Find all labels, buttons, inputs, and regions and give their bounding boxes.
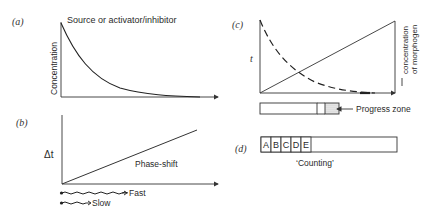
legend-slow: Slow: [60, 198, 111, 208]
panel-a-decay-curve: [61, 23, 200, 97]
counting-cell-label: E: [303, 140, 309, 150]
panel-c-time-line: [260, 21, 395, 93]
panel-d: (d) ABCDE ‘Counting’: [235, 137, 397, 168]
panel-d-label: (d): [235, 143, 247, 155]
figure-canvas: (a) Source or activator/inhibitor Concen…: [0, 0, 437, 213]
slow-wave-icon: [62, 202, 86, 204]
panel-c-morphogen-curve: [260, 20, 375, 93]
legend-slow-label: Slow: [92, 198, 111, 208]
panel-c-right-label-line2: of morphogen: [410, 25, 419, 74]
panel-a-label: (a): [12, 16, 24, 28]
limb-bud-bar: [260, 103, 317, 114]
counting-cell-label: D: [293, 140, 300, 150]
fast-arrow-icon: [122, 191, 127, 195]
legend-fast: Fast: [60, 188, 146, 198]
counting-cell-label: C: [283, 140, 290, 150]
progress-zone-label: Progress zone: [356, 104, 411, 114]
panel-a-title: Source or activator/inhibitor: [67, 15, 177, 25]
counting-cells: ABCDE: [261, 137, 311, 152]
panel-a-ylabel: Concentration: [49, 42, 59, 95]
panel-b-label: (b): [16, 117, 28, 129]
panel-b-phase-line: [62, 130, 197, 184]
progress-zone-box: [325, 103, 339, 114]
panel-c: (c) t concentration of morphogen Progres…: [232, 19, 419, 114]
fast-wave-icon: [62, 192, 128, 194]
counting-cell-label: A: [263, 140, 269, 150]
panel-c-ylabel: t: [250, 53, 253, 64]
legend-fast-label: Fast: [129, 188, 146, 198]
panel-a: (a) Source or activator/inhibitor Concen…: [12, 15, 218, 97]
panel-c-right-label-line1: concentration: [401, 26, 410, 74]
counting-cell-label: B: [273, 140, 279, 150]
counting-caption: ‘Counting’: [296, 158, 334, 168]
panel-c-label: (c): [232, 19, 244, 31]
panel-b: (b) Δt Phase-shift Fast Slow: [16, 115, 218, 208]
panel-b-line-label: Phase-shift: [135, 159, 178, 169]
slow-arrow-icon: [86, 201, 91, 205]
panel-b-ylabel: Δt: [44, 149, 54, 160]
